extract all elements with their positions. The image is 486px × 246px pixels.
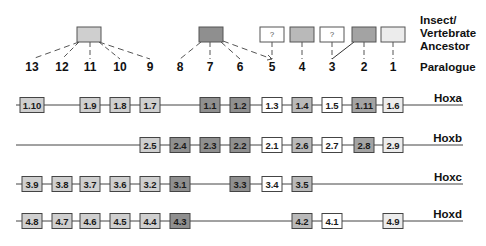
gene-label: 1.5 [325,100,339,111]
gene-box-4.3: 4.3 [170,214,190,229]
ancestor-box [77,27,101,42]
legend: Insect/ Vertebrate Ancestor Paralogue [420,14,476,73]
gene-box-2.1: 2.1 [262,138,282,153]
paralogue-number-row: 13121110987654321 [25,60,396,74]
gene-label: 3.7 [83,179,96,190]
cluster-hoxb: Hoxb2.52.42.32.22.12.62.72.82.9 [16,132,463,153]
cluster-hoxc: Hoxc3.93.83.73.63.23.13.33.43.5 [16,171,463,192]
paralogue-number-6: 6 [237,60,244,74]
gene-box-3.7: 3.7 [80,177,100,192]
gene-box-3.9: 3.9 [22,177,42,192]
paralogue-number-12: 12 [55,60,69,74]
gene-box-2.5: 2.5 [140,138,160,153]
gene-label: 3.3 [233,179,246,190]
hox-cluster-diagram: ?? 13121110987654321 Insect/ Vertebrate … [0,0,486,246]
gene-label: 2.9 [386,140,399,151]
gene-label: 3.6 [113,179,126,190]
gene-label: 2.4 [173,140,187,151]
gene-box-4.2: 4.2 [292,214,312,229]
gene-label: 1.4 [295,100,309,111]
gene-label: 1.10 [23,100,42,111]
gene-label: 3.8 [55,179,68,190]
gene-label: 3.9 [25,179,38,190]
ancestor-box [199,27,223,42]
gene-label: 1.9 [83,100,96,111]
ancestor-link-line [221,42,240,59]
gene-label: 1.6 [386,100,399,111]
cluster-hoxa: Hoxa1.101.91.81.71.11.21.31.41.51.111.6 [16,92,463,113]
gene-box-2.2: 2.2 [230,138,250,153]
unknown-ancestor-label: ? [270,30,275,39]
gene-label: 4.1 [325,216,339,227]
cluster-name: Hoxc [434,171,463,183]
cluster-hoxd: Hoxd4.84.74.64.54.44.34.24.14.9 [16,208,463,229]
gene-box-1.8: 1.8 [110,98,130,113]
gene-box-2.4: 2.4 [170,138,190,153]
ancestor-link-line [99,42,120,59]
ancestor-legend-line-2: Vertebrate [420,27,476,39]
gene-label: 3.4 [265,179,279,190]
ancestor-box [290,27,314,42]
gene-box-1.11: 1.11 [352,98,376,113]
gene-label: 2.7 [325,140,338,151]
gene-label: 4.5 [113,216,127,227]
cluster-name: Hoxd [433,208,462,220]
paralogue-legend: Paralogue [420,61,476,73]
gene-box-4.8: 4.8 [22,214,42,229]
paralogue-number-10: 10 [113,60,127,74]
paralogue-number-11: 11 [84,60,97,74]
gene-box-2.6: 2.6 [292,138,312,153]
gene-box-3.8: 3.8 [52,177,72,192]
gene-label: 2.2 [233,140,246,151]
ancestor-legend-line-3: Ancestor [420,40,470,52]
gene-box-1.3: 1.3 [262,98,282,113]
gene-box-2.9: 2.9 [383,138,403,153]
paralogue-number-4: 4 [299,60,306,74]
gene-box-4.5: 4.5 [110,214,130,229]
paralogue-number-7: 7 [207,60,214,74]
gene-box-1.5: 1.5 [322,98,342,113]
ancestor-legend-line-1: Insect/ [420,14,457,26]
ancestor-link-line [62,42,79,59]
unknown-ancestor-label: ? [330,30,335,39]
gene-box-3.2: 3.2 [140,177,160,192]
gene-box-4.1: 4.1 [322,214,342,229]
paralogue-number-5: 5 [269,60,276,74]
gene-label: 1.2 [233,100,246,111]
ancestor-box [352,27,376,42]
gene-label: 4.8 [25,216,38,227]
gene-box-1.4: 1.4 [292,98,312,113]
gene-label: 2.5 [143,140,157,151]
gene-box-1.2: 1.2 [230,98,250,113]
gene-label: 3.5 [295,179,309,190]
ancestor-layer: ?? [32,27,405,60]
gene-label: 1.8 [113,100,126,111]
ancestor-anc-1 [381,27,405,59]
gene-label: 4.3 [173,216,186,227]
ancestor-anc-4 [290,27,314,59]
ancestor-link-line [180,42,201,59]
gene-label: 3.1 [173,179,187,190]
gene-label: 1.11 [355,100,374,111]
gene-label: 4.4 [143,216,157,227]
gene-box-3.1: 3.1 [170,177,190,192]
ancestor-anc-13-9 [32,27,150,59]
gene-label: 2.6 [295,140,308,151]
gene-box-3.6: 3.6 [110,177,130,192]
gene-box-4.9: 4.9 [383,214,403,229]
ancestor-box [381,27,405,42]
gene-box-1.1: 1.1 [200,98,220,113]
paralogue-number-9: 9 [147,60,154,74]
gene-label: 1.3 [265,100,278,111]
gene-box-1.7: 1.7 [140,98,160,113]
ancestor-link-line [99,42,150,59]
cluster-name: Hoxb [433,132,462,144]
gene-box-1.9: 1.9 [80,98,100,113]
paralogue-number-8: 8 [177,60,184,74]
gene-box-3.4: 3.4 [262,177,282,192]
paralogue-number-2: 2 [361,60,368,74]
gene-label: 1.1 [203,100,217,111]
gene-label: 3.2 [143,179,156,190]
paralogue-number-13: 13 [25,60,39,74]
ancestor-link-line [32,42,79,59]
